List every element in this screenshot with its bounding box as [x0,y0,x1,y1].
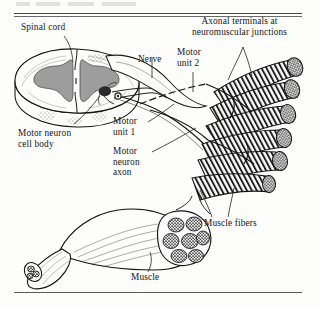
leader-axon [152,128,196,152]
fiber-to-belly-link [176,196,192,210]
motor-unit-1-axon-branch [150,110,208,140]
muscle-fiber-group [192,55,306,200]
muscle-fiber [192,174,276,200]
label-muscle: Muscle [131,272,159,283]
muscle-belly [21,196,211,289]
label-axonal-terminals: Axonal terminals at neuromuscular juncti… [162,16,317,37]
muscle-cross-section [158,211,211,266]
label-motor-unit-1: Motor unit 1 [113,116,137,137]
figure-motor-unit: Spinal cord Nerve Motor unit 2 Axonal te… [0,0,319,310]
label-spinal-cord: Spinal cord [21,22,65,33]
leader-axonal-1 [243,47,252,76]
label-nerve: Nerve [138,54,161,65]
label-motor-neuron-cell-body: Motor neuron cell body [18,128,71,149]
illustration-canvas [0,0,319,310]
leader-axonal-2 [228,47,243,80]
label-muscle-fibers: Muscle fibers [204,218,257,229]
label-motor-unit-2: Motor unit 2 [177,47,201,68]
label-motor-neuron-axon: Motor neuron axon [113,146,140,178]
